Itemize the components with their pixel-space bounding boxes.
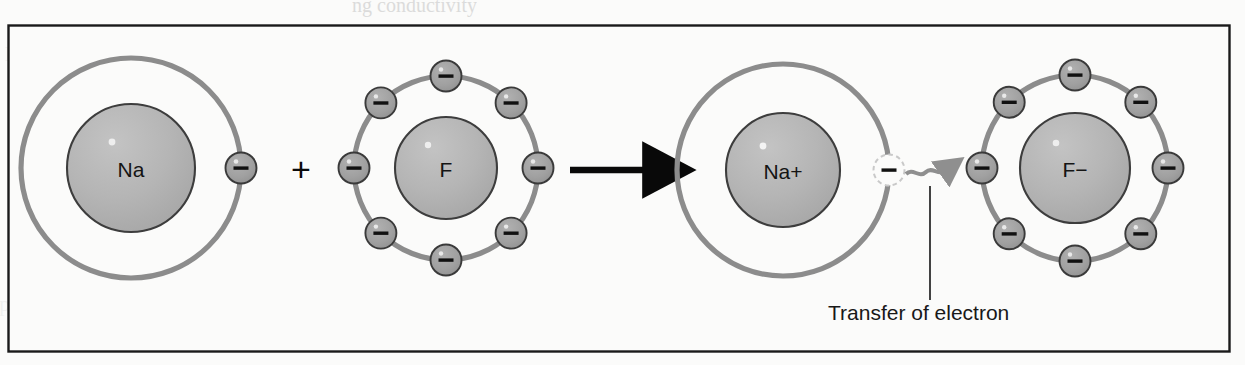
- f-atom-electron-225: [365, 218, 396, 249]
- transfer-arrow: [906, 170, 945, 174]
- na-ion-label: Na+: [763, 160, 802, 183]
- f-atom-electron-135: [365, 87, 396, 118]
- f-atom-electron-180: [339, 153, 370, 184]
- na-atom-nucleus-highlight: [109, 139, 116, 146]
- figure-stage: ng conductivitytion is. Ionic compoundsc…: [0, 0, 1245, 365]
- f-ion-electron-225: [994, 218, 1025, 249]
- f-ion-electron-135: [994, 87, 1025, 118]
- na-ion-nucleus-highlight: [760, 143, 767, 150]
- f-ion-electron-315: [1125, 218, 1156, 249]
- na-atom-electron-0: [226, 153, 257, 184]
- f-atom-nucleus-highlight: [425, 142, 431, 148]
- transfer-caption: Transfer of electron: [828, 301, 1009, 324]
- f-atom-electron-0: [523, 153, 554, 184]
- f-ion-electron-270: [1060, 246, 1091, 277]
- ionic-bonding-diagram: Na + F: [0, 0, 1245, 365]
- f-ion-electron-0: [1153, 153, 1184, 184]
- f-atom-electron-315: [496, 218, 527, 249]
- f-ion-electron-180: [967, 153, 998, 184]
- f-atom-electron-45: [496, 87, 527, 118]
- f-ion-label: F−: [1062, 158, 1087, 181]
- na-atom-label: Na: [118, 158, 145, 181]
- f-atom-electron-270: [431, 245, 462, 276]
- f-ion-nucleus-highlight: [1053, 140, 1060, 147]
- f-ion-electron-45: [1125, 87, 1156, 118]
- na-ion-ghost-electron: [874, 155, 905, 186]
- f-ion-electron-90: [1060, 60, 1091, 91]
- f-atom-label: F: [440, 158, 453, 181]
- f-atom-electron-90: [431, 61, 462, 92]
- plus-operator: +: [291, 150, 311, 188]
